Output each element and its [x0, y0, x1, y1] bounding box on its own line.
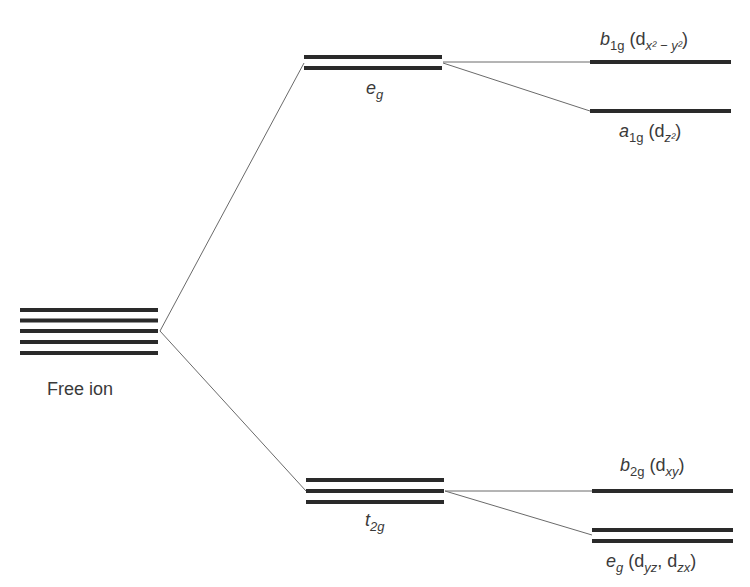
connector-t2g-eg — [445, 491, 592, 535]
eg-right-levels — [592, 530, 733, 541]
eg-label: eg — [366, 78, 384, 102]
b1g-label: b1g (dx² − y²) — [600, 29, 688, 53]
splitting-diagram: Free ion eg t2g b1g (dx² − y²) a1g (dz²)… — [0, 0, 750, 587]
free-ion-levels — [20, 310, 158, 353]
t2g-levels — [306, 480, 444, 502]
eg-right-label: eg (dyz, dzx) — [606, 551, 696, 575]
t2g-label: t2g — [365, 510, 385, 534]
free-ion-label: Free ion — [47, 379, 113, 399]
eg-levels — [304, 57, 442, 68]
b2g-label: b2g (dxy) — [620, 455, 685, 479]
connector-freeion-eg — [160, 63, 304, 331]
connector-eg-a1g — [443, 63, 590, 111]
connector-freeion-t2g — [160, 331, 306, 491]
a1g-label: a1g (dz²) — [619, 121, 681, 145]
